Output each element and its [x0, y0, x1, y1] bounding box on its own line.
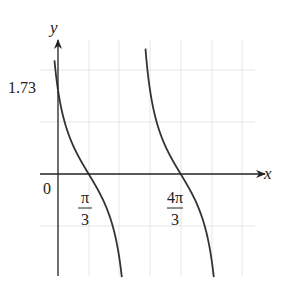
y-tick-label: 1.73 [8, 79, 36, 96]
curve-series [54, 49, 213, 277]
cotangent-curve-branch [145, 49, 213, 277]
y-axis-label: y [48, 18, 58, 37]
cotangent-chart: y x 0 1.73 π 3 4π 3 [0, 0, 290, 293]
cotangent-curve-branch [58, 91, 122, 278]
origin-label: 0 [43, 180, 51, 197]
tick-denominator: 3 [81, 211, 89, 228]
tick-numerator: π [81, 189, 89, 206]
x-tick-pi-over-3: π 3 [78, 189, 92, 228]
tick-denominator: 3 [171, 211, 179, 228]
tick-numerator: 4π [167, 189, 183, 206]
x-axis-label: x [263, 164, 272, 183]
